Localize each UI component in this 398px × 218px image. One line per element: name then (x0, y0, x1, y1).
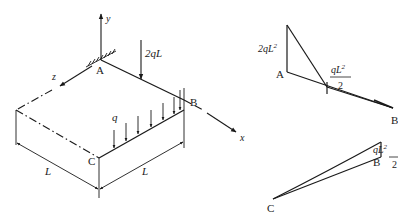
moment-diagram-CB (273, 142, 381, 199)
moment-CB-numerator: qL2 (373, 143, 388, 155)
y-axis-label: y (105, 13, 111, 24)
moment-C-label: C (267, 202, 274, 214)
dimension-label-right: L (141, 165, 148, 177)
moment-mid-numerator: qL2 (331, 63, 346, 75)
moment-A-value: 2qL2 (258, 42, 278, 54)
x-axis-arrow (207, 113, 236, 132)
moment-mid-denominator: 2 (338, 80, 343, 91)
distributed-load-arrows (114, 90, 180, 148)
moment-A-label: A (276, 68, 284, 80)
x-axis-label: x (239, 132, 245, 143)
point-C-label: C (88, 155, 95, 167)
z-axis-label: z (51, 71, 56, 82)
moment-B-label: B (391, 114, 398, 126)
beam-AB (101, 60, 184, 100)
z-axis-arrow (60, 66, 92, 86)
back-edge-dashdot (16, 110, 99, 158)
beam-diagram: y A 2qL z B x q C L L 2qL2 A qL2 2 B C B… (0, 0, 398, 218)
z-axis-dashdot (16, 90, 52, 110)
moment-CB-B-label: B (373, 156, 380, 168)
point-load-label: 2qL (145, 47, 162, 59)
moment-CB-denominator: 2 (392, 159, 397, 170)
point-B-label: B (190, 96, 197, 108)
distributed-load-label: q (112, 111, 118, 123)
point-A-label: A (96, 64, 104, 76)
dimension-label-left: L (44, 165, 51, 177)
